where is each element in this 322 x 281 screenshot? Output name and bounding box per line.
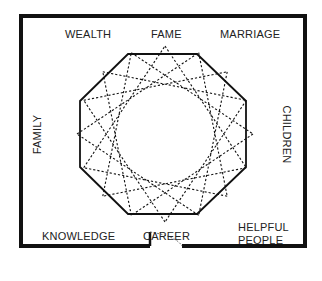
star-line — [131, 134, 253, 215]
octagon — [80, 54, 246, 214]
star-line — [165, 100, 246, 222]
label-career: CAREER — [143, 230, 190, 243]
star-line — [84, 100, 165, 222]
label-family: FAMILY — [31, 115, 44, 155]
star-line — [131, 53, 253, 134]
label-fame: FAME — [151, 28, 182, 41]
star-line — [84, 46, 165, 168]
label-people: PEOPLE — [238, 234, 289, 247]
star-line — [77, 53, 199, 134]
label-children: CHILDREN — [280, 105, 293, 165]
label-wealth: WEALTH — [65, 28, 111, 41]
label-marriage: MARRIAGE — [220, 28, 280, 41]
room-wall — [21, 16, 305, 246]
star-line — [77, 134, 199, 215]
label-knowledge: KNOWLEDGE — [42, 230, 115, 243]
sixteen-point-star — [77, 46, 253, 222]
star-line — [165, 46, 246, 168]
label-helpful-people: HELPFUL PEOPLE — [238, 221, 289, 247]
label-helpful: HELPFUL — [238, 221, 289, 234]
